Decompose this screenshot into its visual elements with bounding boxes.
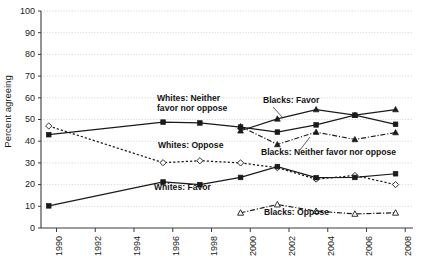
x-tick-label: 2008 — [403, 236, 413, 256]
y-tick-label: 90 — [25, 28, 35, 38]
data-point-marker — [393, 107, 399, 112]
annotation-blacks-favor: Blacks: Favor — [263, 95, 320, 118]
y-axis-title: Percent agreeing — [2, 75, 13, 147]
data-point-marker — [353, 175, 358, 180]
chart-figure: 0102030405060708090100 19901992199419961… — [0, 0, 421, 270]
annotation-blacks-neither: Blacks: Neither favor nor oppose — [261, 137, 396, 157]
y-tick-label: 70 — [25, 71, 35, 81]
line-chart: 0102030405060708090100 19901992199419961… — [0, 0, 421, 270]
data-point-marker — [237, 160, 243, 166]
data-point-marker — [161, 120, 166, 125]
data-point-marker — [238, 175, 243, 180]
data-point-marker — [314, 123, 319, 128]
y-tick-label: 40 — [25, 136, 35, 146]
series-annotation-label: Blacks: Oppose — [264, 207, 329, 217]
series-group — [46, 107, 399, 217]
series-line — [49, 167, 396, 206]
data-point-marker — [393, 171, 398, 176]
y-tick-label: 20 — [25, 179, 35, 189]
data-point-marker — [313, 129, 319, 134]
series-line — [49, 115, 396, 135]
x-tick-label: 2004 — [326, 236, 336, 256]
x-tick-label: 1998 — [209, 236, 219, 256]
series-annotation-label: Blacks: Favor — [263, 95, 320, 105]
series-annotation-label: Blacks: Neither favor nor oppose — [261, 147, 396, 157]
data-point-marker — [393, 130, 399, 135]
annotation-whites-oppose: Whites: Oppose — [158, 140, 224, 150]
y-tick-label: 30 — [25, 158, 35, 168]
y-tick-label: 50 — [25, 114, 35, 124]
x-tick-label: 2000 — [248, 236, 258, 256]
series-line — [241, 126, 396, 144]
annotation-blacks-oppose: Blacks: Oppose — [264, 207, 329, 217]
data-point-marker — [313, 107, 319, 112]
y-tick-label: 60 — [25, 93, 35, 103]
x-tick-label: 1992 — [93, 236, 103, 256]
y-tick-label: 80 — [25, 49, 35, 59]
data-point-marker — [46, 204, 51, 209]
data-point-marker — [392, 182, 398, 188]
data-point-marker — [46, 123, 52, 129]
x-tick-label: 2006 — [364, 236, 374, 256]
series-whites-neither-favor-nor-oppose — [46, 113, 397, 137]
annotation-whites-favor: Whites: Favor — [154, 182, 211, 192]
y-tick-labels: 0102030405060708090100 — [20, 6, 41, 233]
annotation-whites-neither: Whites: Neitherfavor nor oppose — [157, 93, 227, 113]
data-point-marker — [160, 160, 166, 166]
series-annotation-label: favor nor oppose — [157, 103, 227, 113]
data-point-marker — [198, 121, 203, 126]
data-point-marker — [393, 122, 398, 127]
series-annotation-label: Whites: Oppose — [158, 140, 224, 150]
series-whites-favor — [46, 164, 397, 208]
x-tick-label: 2002 — [287, 236, 297, 256]
x-tick-label: 1996 — [171, 236, 181, 256]
y-tick-label: 0 — [30, 223, 35, 233]
y-tick-label: 10 — [25, 201, 35, 211]
data-point-marker — [197, 158, 203, 164]
data-point-marker — [275, 130, 280, 135]
series-line — [241, 110, 396, 131]
series-annotation-label: Whites: Favor — [154, 182, 211, 192]
x-tick-label: 1990 — [54, 236, 64, 256]
y-axis-title-group: Percent agreeing — [2, 75, 13, 147]
series-annotations: Whites: Neitherfavor nor opposeBlacks: F… — [154, 93, 396, 217]
data-point-marker — [275, 164, 280, 169]
data-point-marker — [314, 175, 319, 180]
x-tick-labels: 1990199219941996199820002002200420062008 — [54, 228, 413, 256]
data-point-marker — [46, 132, 51, 137]
series-annotation-label: Whites: Neither — [157, 93, 221, 103]
y-tick-label: 100 — [20, 6, 35, 16]
x-tick-label: 1994 — [132, 236, 142, 256]
